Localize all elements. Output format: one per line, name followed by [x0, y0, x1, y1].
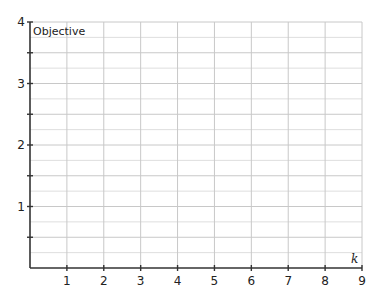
- x-tick-label: 8: [321, 274, 329, 288]
- x-tick-label: 1: [63, 274, 71, 288]
- x-tick-label: 9: [358, 274, 366, 288]
- y-tick-label: 2: [17, 138, 25, 152]
- x-tick-label: 5: [211, 274, 219, 288]
- x-axis-label: k: [351, 252, 358, 266]
- x-tick-label: 6: [248, 274, 256, 288]
- y-axis-label: Objective: [33, 25, 85, 38]
- y-tick-label: 3: [17, 77, 25, 91]
- x-tick-label: 3: [137, 274, 145, 288]
- grid-lines: [30, 22, 362, 268]
- chart: 123456789 1234 Objective k: [0, 0, 382, 297]
- x-tick-label: 4: [174, 274, 182, 288]
- x-tick-label: 7: [284, 274, 292, 288]
- y-tick-label: 1: [17, 200, 25, 214]
- y-tick-label: 4: [17, 15, 25, 29]
- x-tick-label: 2: [100, 274, 108, 288]
